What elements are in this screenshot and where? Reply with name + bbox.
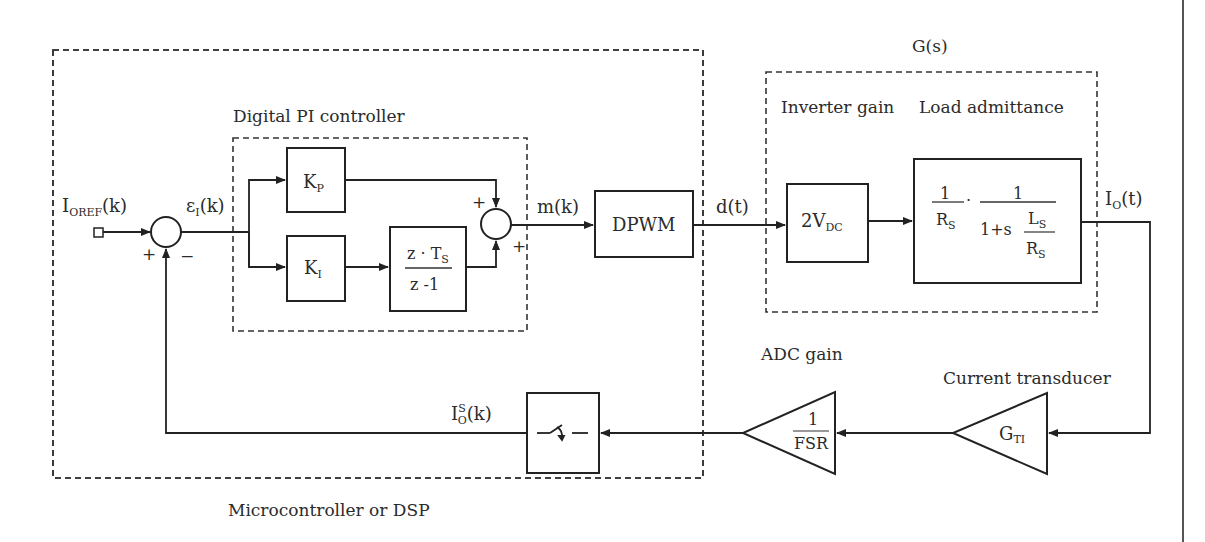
integrator-denominator: z -1 xyxy=(410,275,439,294)
sum2-top-plus: + xyxy=(472,192,486,212)
reference-signal-label: IOREF(k) xyxy=(62,195,127,219)
microcontroller-label: Microcontroller or DSP xyxy=(228,500,430,520)
load-f1-numerator: 1 xyxy=(940,184,950,203)
load-f2-numerator: 1 xyxy=(1013,184,1023,203)
inverter-gain-label: Inverter gain xyxy=(781,97,894,117)
current-transducer-label: Current transducer xyxy=(943,368,1112,388)
pi-controller-label: Digital PI controller xyxy=(233,106,406,126)
modulation-signal-label: m(k) xyxy=(537,196,579,217)
load-multiply-dot: · xyxy=(966,191,971,210)
duty-signal-label: d(t) xyxy=(716,196,749,217)
control-block-diagram: Microcontroller or DSP Digital PI contro… xyxy=(0,0,1205,542)
load-f2-den-prefix: 1+s xyxy=(980,220,1012,239)
error-signal-label: εI(k) xyxy=(186,195,225,219)
sum2-bottom-plus: + xyxy=(512,236,526,256)
error-summing-junction xyxy=(151,217,181,247)
sampled-current-label: ISO(k) xyxy=(451,402,492,427)
output-current-label: IO(t) xyxy=(1105,188,1142,212)
reference-input-terminal xyxy=(94,228,103,237)
plant-label: G(s) xyxy=(912,36,948,56)
integrator-block xyxy=(390,227,466,311)
adc-gain-block xyxy=(743,392,835,474)
adc-denominator: FSR xyxy=(794,434,829,453)
sum1-plus-sign: + xyxy=(142,244,156,264)
adc-gain-label: ADC gain xyxy=(760,344,843,364)
pi-controller-region xyxy=(233,138,527,331)
pi-summing-junction xyxy=(481,209,511,239)
load-admittance-label: Load admittance xyxy=(919,97,1064,117)
dpwm-label: DPWM xyxy=(612,214,675,235)
adc-numerator: 1 xyxy=(808,410,818,429)
sum1-minus-sign: − xyxy=(180,246,194,266)
